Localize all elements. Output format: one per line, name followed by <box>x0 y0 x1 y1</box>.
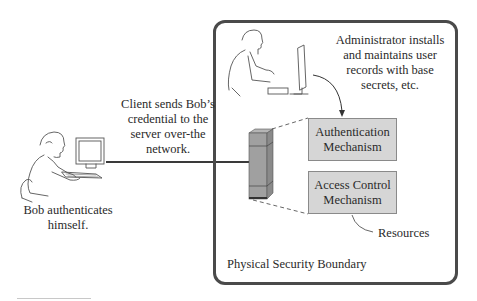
bob-caption-line: himself. <box>20 218 116 233</box>
mechanism-label: Access Control <box>309 178 396 193</box>
bob-user-icon <box>21 132 104 202</box>
network-caption: Client sends Bob’s credential to the ser… <box>112 97 224 157</box>
mechanism-label: Mechanism <box>309 140 396 155</box>
administrator-caption: Administrator installs and maintains use… <box>330 33 450 93</box>
access-control-mechanism-box: Access Control Mechanism <box>308 171 397 214</box>
administrator-caption-line: secrets, etc. <box>330 78 450 93</box>
network-caption-line: server over-the <box>112 127 224 142</box>
network-caption-line: network. <box>112 142 224 157</box>
bob-caption-line: Bob authenticates <box>20 203 116 218</box>
network-caption-line: credential to the <box>112 112 224 127</box>
administrator-caption-line: records with base <box>330 63 450 78</box>
bob-caption: Bob authenticates himself. <box>20 203 116 233</box>
footer-rule <box>17 298 91 299</box>
boundary-label: Physical Security Boundary <box>227 257 367 272</box>
network-caption-line: Client sends Bob’s <box>112 97 224 112</box>
administrator-caption-line: and maintains user <box>330 48 450 63</box>
administrator-caption-line: Administrator installs <box>330 33 450 48</box>
mechanism-label: Mechanism <box>309 193 396 208</box>
authentication-mechanism-box: Authentication Mechanism <box>308 118 397 161</box>
resources-label: Resources <box>378 226 429 241</box>
mechanism-label: Authentication <box>309 125 396 140</box>
